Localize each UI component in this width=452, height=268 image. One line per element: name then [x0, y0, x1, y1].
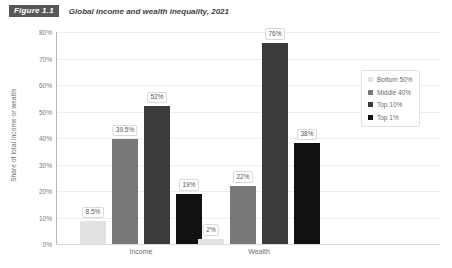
figure-title: Global income and wealth inequality, 202… [69, 7, 229, 16]
legend-item[interactable]: Top 1% [368, 114, 412, 121]
legend-swatch-icon [368, 90, 373, 95]
y-axis-tick-label: 40% [4, 135, 52, 142]
bar-value-label: 52% [147, 92, 167, 104]
legend-item-label: Middle 40% [377, 89, 411, 96]
y-axis-tick-label: 0% [4, 241, 52, 248]
gridline [56, 244, 440, 245]
legend-item-label: Bottom 50% [377, 76, 412, 83]
legend-swatch-icon [368, 102, 373, 107]
bar [198, 239, 224, 244]
y-axis-tick-label: 10% [4, 214, 52, 221]
bar [80, 221, 106, 244]
bar-value-label: 2% [203, 224, 219, 236]
x-axis-tick-label: Income [130, 248, 153, 255]
y-axis-tick-label: 20% [4, 188, 52, 195]
x-axis-tick-labels: IncomeWealth [56, 248, 440, 262]
legend-item[interactable]: Bottom 50% [368, 76, 412, 83]
bar-group: 8.5%39.5%52%19% [80, 32, 202, 244]
bar-value-label: 19% [179, 179, 199, 191]
legend-item[interactable]: Top 10% [368, 101, 412, 108]
x-axis-tick-label: Wealth [248, 248, 270, 255]
y-axis-tick-labels: 0%10%20%30%40%50%60%70%80% [0, 32, 52, 244]
bar [112, 139, 138, 244]
legend-swatch-icon [368, 115, 373, 120]
y-axis-tick-label: 70% [4, 55, 52, 62]
bar-value-label: 38% [297, 129, 317, 141]
y-axis-tick-label: 30% [4, 161, 52, 168]
bar-value-label: 39.5% [112, 125, 137, 137]
chart-legend: Bottom 50%Middle 40%Top 10%Top 1% [361, 70, 420, 127]
legend-item-label: Top 10% [377, 101, 402, 108]
bar [144, 106, 170, 244]
bar-group: 2%22%76%38% [198, 32, 320, 244]
legend-item[interactable]: Middle 40% [368, 89, 412, 96]
legend-item-label: Top 1% [377, 114, 399, 121]
bar-value-label: 76% [265, 28, 285, 40]
bar [294, 143, 320, 244]
bar-value-label: 8.5% [82, 207, 104, 219]
y-axis-tick-label: 80% [4, 29, 52, 36]
chart-plot-area: Share of total income or wealth 0%10%20%… [0, 26, 452, 268]
bar [262, 43, 288, 244]
figure-number-badge: Figure 1.1 [9, 5, 59, 17]
bar-value-label: 22% [233, 171, 253, 183]
figure-header: Figure 1.1 Global income and wealth ineq… [9, 4, 229, 18]
bar [230, 186, 256, 244]
y-axis-tick-label: 50% [4, 108, 52, 115]
legend-swatch-icon [368, 77, 373, 82]
chart-bars: 8.5%39.5%52%19%2%22%76%38% [56, 32, 440, 244]
y-axis-tick-label: 60% [4, 82, 52, 89]
